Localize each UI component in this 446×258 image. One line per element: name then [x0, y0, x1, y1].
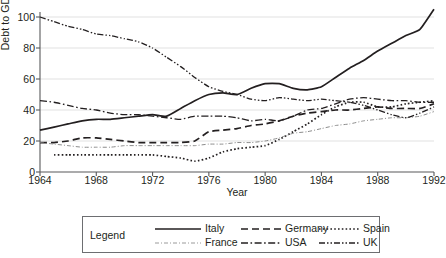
- legend-label-germany[interactable]: Germany: [285, 223, 328, 234]
- chart-figure: Debt to GDP 100 80 60 40 20 0 19641968: [0, 0, 446, 258]
- axes: [36, 12, 434, 172]
- legend-label-france[interactable]: France: [205, 237, 238, 248]
- x-tick-label: 1984: [301, 175, 341, 186]
- legend-label-usa[interactable]: USA: [285, 237, 307, 248]
- series-line-usa: [40, 98, 434, 121]
- y-tick-label: 40: [9, 105, 35, 115]
- x-tick-label: 1976: [189, 175, 229, 186]
- x-tick-label: 1980: [245, 175, 285, 186]
- x-axis-label: Year: [207, 186, 267, 198]
- y-axis-ticklabels: 100 80 60 40 20 0: [0, 0, 35, 258]
- x-tick-label: 1988: [358, 175, 398, 186]
- y-tick-label: 80: [9, 43, 35, 53]
- legend-label-uk[interactable]: UK: [363, 237, 378, 248]
- x-tick-label: 1992: [414, 175, 446, 186]
- y-tick-label: 60: [9, 74, 35, 84]
- y-tick-label: 100: [9, 12, 35, 22]
- legend-label-spain[interactable]: Spain: [363, 223, 390, 234]
- legend-label-italy[interactable]: Italy: [205, 223, 224, 234]
- y-tick-label: 20: [9, 136, 35, 146]
- chart-legend: Legend ItalyGermanySpainFranceUSAUK: [82, 216, 380, 253]
- gridlines: [40, 17, 434, 141]
- x-tick-label: 1968: [76, 175, 116, 186]
- series-line-uk: [40, 17, 434, 118]
- x-tick-label: 1964: [20, 175, 60, 186]
- series-line-italy: [40, 9, 434, 130]
- series-lines: [40, 9, 434, 161]
- x-tick-label: 1972: [133, 175, 173, 186]
